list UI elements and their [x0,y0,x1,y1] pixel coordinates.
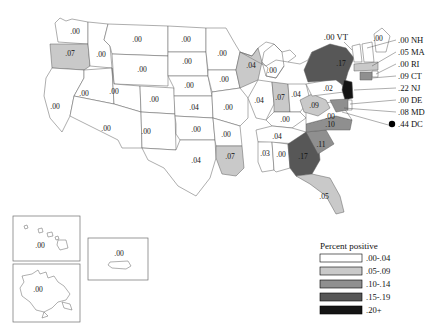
label-ND: .00 [181,35,191,44]
state-VT[interactable] [352,44,362,62]
label-PA: .02 [323,84,333,93]
choropleth-map-figure: .00 .07 .00 .00 .00 .00 .00 .00 .00 .00 … [0,0,430,331]
state-NH[interactable] [362,42,374,62]
legend-label-0: .00-.04 [366,253,391,263]
map-svg: .00 .07 .00 .00 .00 .00 .00 .00 .00 .00 … [0,0,430,331]
inset-alaska-value: .00 [33,285,43,294]
dc-marker-dot [389,121,395,127]
label-FL: .05 [319,192,329,201]
label-IA: .00 [219,75,229,84]
label-ME: .00 [373,34,383,43]
legend-label-3: .15-.19 [366,292,390,302]
legend-label-1: .05-.09 [366,266,390,276]
label-NM: .00 [141,127,151,136]
state-shapes [44,18,390,214]
callout-RI: .00 RI [398,59,420,69]
inset-alaska: .00 [13,264,80,322]
state-CT[interactable] [360,72,372,80]
label-IL: .04 [254,96,264,105]
label-WY: .00 [137,65,147,74]
label-AZ: .00 [101,124,111,133]
label-AL: .00 [276,150,286,159]
label-MI: .00 [267,66,277,75]
label-CA: .00 [50,102,60,111]
legend-swatch-2 [320,280,362,288]
state-LA[interactable] [216,146,244,176]
legend-swatch-0 [320,254,362,262]
label-NE: .00 [184,81,194,90]
label-MN: .00 [217,49,227,58]
callout-VT: .00 VT [324,32,349,42]
legend-label-2: .10-.14 [366,279,391,289]
inset-puerto-rico-value: .00 [114,249,124,258]
inset-hawaii: .00 [13,216,80,261]
label-KS: .04 [189,103,199,112]
label-OR: .07 [65,49,75,58]
callout-MD: .08 MD [398,107,425,117]
callout-NJ: .22 NJ [398,83,421,93]
label-VA: .00 [325,112,335,121]
legend-swatch-3 [320,293,362,301]
legend-label-4: .20+ [366,305,382,315]
inset-hawaii-value: .00 [35,241,45,250]
label-NY: .17 [336,59,346,68]
legend-swatch-1 [320,267,362,275]
label-NV: .00 [79,89,89,98]
label-ID: .00 [96,50,106,59]
label-GA: .17 [298,152,308,161]
callout-CT: .09 CT [398,71,423,81]
label-WA: .00 [70,27,80,36]
legend-title: Percent positive [320,241,378,251]
label-MO: .00 [223,103,233,112]
label-NC: .10 [325,120,335,129]
inset-puerto-rico: .00 [88,238,148,280]
label-WV: .09 [309,101,319,110]
label-MS: .03 [260,149,270,158]
label-TX: .04 [191,156,201,165]
label-OH: .04 [291,90,301,99]
label-SD: .00 [182,57,192,66]
callout-DC: .44 DC [398,119,423,129]
label-KY: .00 [280,115,290,124]
label-OK: .00 [191,125,201,134]
callout-NH: .00 NH [398,35,423,45]
label-UT: .00 [109,87,119,96]
label-CO: .00 [149,95,159,104]
label-TN: .04 [272,132,282,141]
label-SC: .11 [316,140,325,149]
label-LA: .07 [225,152,235,161]
state-NY[interactable] [304,44,354,86]
state-NJ[interactable] [342,80,353,100]
callout-DE: .00 DE [398,95,422,105]
legend: Percent positive .00-.04 .05-.09 .10-.14… [320,241,391,315]
callout-MA: .05 MA [398,47,426,57]
label-IN: .07 [275,93,285,102]
state-RI[interactable] [372,71,378,77]
label-MT: .00 [132,35,142,44]
state-MA[interactable] [354,62,378,71]
label-WI: .04 [246,61,256,70]
legend-swatch-4 [320,306,362,314]
label-AR: .00 [221,130,231,139]
